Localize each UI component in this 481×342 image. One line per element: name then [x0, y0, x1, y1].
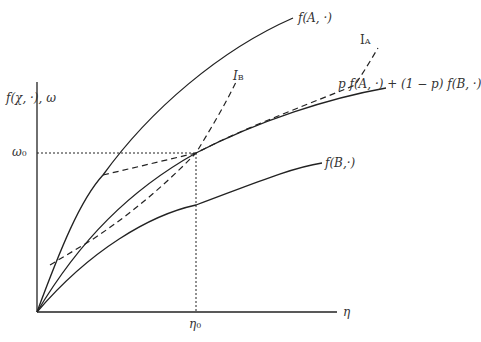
- curve-mixture: [37, 88, 386, 312]
- eta0-label: η0: [189, 318, 201, 330]
- fB-label: f(B,·): [325, 157, 355, 169]
- eta0-subscript: 0: [196, 321, 201, 330]
- curve-IB: [103, 82, 236, 175]
- fA-label: f(A, ·): [298, 12, 332, 24]
- IB-label: IB: [233, 70, 244, 82]
- omega0-label: ω0: [12, 146, 27, 158]
- IA-label: IA: [360, 34, 371, 46]
- omega0-subscript: 0: [22, 149, 27, 158]
- mixture-label: p f(A, ·) + (1 − p) f(B, ·): [338, 78, 481, 90]
- x-axis-label: η: [343, 306, 350, 318]
- IB-subscript: B: [238, 73, 244, 82]
- curve-fB: [37, 163, 322, 312]
- omega0-symbol: ω: [12, 145, 22, 159]
- y-axis-label: f(χ, ·), ω: [6, 92, 56, 104]
- IA-subscript: A: [365, 37, 371, 46]
- curve-fA: [37, 18, 293, 312]
